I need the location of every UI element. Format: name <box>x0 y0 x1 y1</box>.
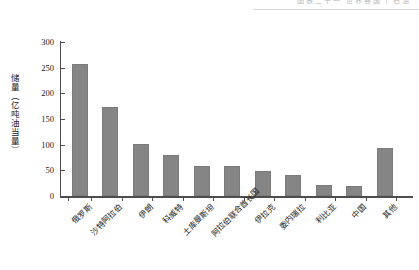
plot-area <box>61 42 413 196</box>
x-tick-mark <box>68 197 69 201</box>
bar <box>377 148 393 196</box>
y-tick-label: 50 <box>0 165 54 175</box>
y-tick-label: 300 <box>0 37 54 47</box>
x-axis-line <box>60 196 413 198</box>
x-tick-mark <box>152 197 153 201</box>
bar <box>72 64 88 196</box>
bar <box>163 155 179 196</box>
bar <box>102 107 118 196</box>
x-tick-mark <box>335 197 336 201</box>
x-tick-mark <box>183 197 184 201</box>
bar <box>133 144 149 196</box>
y-tick-label: 250 <box>0 63 54 73</box>
x-tick-mark <box>305 197 306 201</box>
x-tick-mark <box>366 197 367 201</box>
page-header-text: 图表二十一 世界各国 | 石油 <box>297 0 411 5</box>
x-tick-mark <box>396 197 397 201</box>
y-tick-label: 0 <box>0 191 54 201</box>
bar <box>346 186 362 196</box>
x-tick-mark <box>213 197 214 201</box>
bar <box>224 166 240 196</box>
y-tick-mark <box>61 196 65 197</box>
x-tick-mark <box>122 197 123 201</box>
bar <box>316 185 332 196</box>
x-tick-mark <box>91 197 92 201</box>
bar <box>194 166 210 196</box>
y-tick-label: 150 <box>0 114 54 124</box>
x-tick-mark <box>274 197 275 201</box>
bar-chart-figure: 储量（亿吨油当量） 050100150200250300 俄罗斯沙特阿拉伯伊朗科… <box>0 11 419 270</box>
y-tick-label: 100 <box>0 140 54 150</box>
page-header-rule <box>253 9 419 10</box>
page-header: 图表二十一 世界各国 | 石油 <box>0 0 419 11</box>
y-tick-label: 200 <box>0 88 54 98</box>
bar <box>285 175 301 196</box>
